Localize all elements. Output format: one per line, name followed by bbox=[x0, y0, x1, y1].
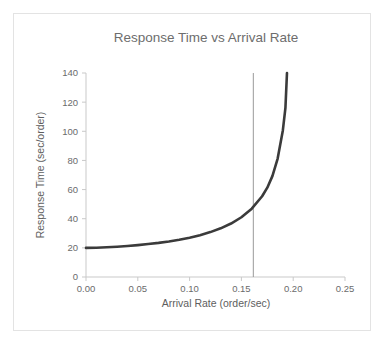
response-time-chart: Response Time vs Arrival Rate Arrival Ra… bbox=[0, 0, 387, 350]
x-axis-ticks: 0.000.050.100.150.200.25 bbox=[77, 277, 355, 294]
chart-title: Response Time vs Arrival Rate bbox=[114, 30, 299, 45]
x-tick-label: 0.20 bbox=[284, 283, 303, 294]
y-tick-label: 100 bbox=[62, 126, 78, 137]
x-tick-label: 0.05 bbox=[129, 283, 148, 294]
y-tick-label: 120 bbox=[62, 97, 78, 108]
x-tick-label: 0.00 bbox=[77, 283, 96, 294]
y-tick-label: 60 bbox=[67, 184, 78, 195]
y-tick-label: 140 bbox=[62, 67, 78, 78]
x-tick-label: 0.25 bbox=[336, 283, 355, 294]
y-tick-label: 80 bbox=[67, 155, 78, 166]
y-axis-ticks: 020406080100120140 bbox=[62, 67, 86, 282]
y-tick-label: 20 bbox=[67, 242, 78, 253]
chart-figure: Response Time vs Arrival Rate Arrival Ra… bbox=[0, 0, 387, 350]
x-axis-title: Arrival Rate (order/sec) bbox=[162, 297, 271, 309]
y-tick-label: 40 bbox=[67, 213, 78, 224]
x-tick-label: 0.10 bbox=[180, 283, 199, 294]
response-time-curve bbox=[86, 73, 287, 248]
y-tick-label: 0 bbox=[73, 271, 78, 282]
y-axis-title: Response Time (sec/order) bbox=[34, 112, 46, 239]
x-tick-label: 0.15 bbox=[232, 283, 251, 294]
